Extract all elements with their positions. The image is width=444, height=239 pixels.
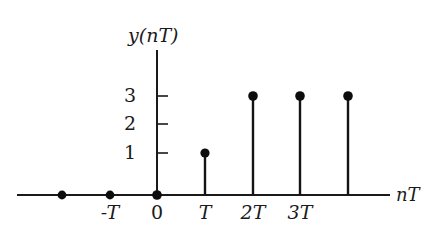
stem-marker	[152, 190, 162, 200]
stem-marker	[343, 91, 353, 101]
y-tick-label-3: 3	[114, 86, 136, 105]
x-tick-label-3t: 3T	[270, 203, 330, 222]
stem-marker	[295, 91, 305, 101]
stem-marker	[58, 191, 67, 200]
y-tick-label-2: 2	[114, 114, 136, 133]
stem-marker	[106, 191, 115, 200]
stem-marker	[248, 91, 258, 101]
y-tick-label-1: 1	[114, 143, 136, 162]
stem-plot-figure: y(nT) nT 3 2 1 -T 0 T 2T 3T	[0, 0, 444, 239]
y-axis-label: y(nT)	[128, 26, 178, 45]
stem-marker	[200, 148, 209, 157]
x-axis-label: nT	[396, 186, 420, 204]
